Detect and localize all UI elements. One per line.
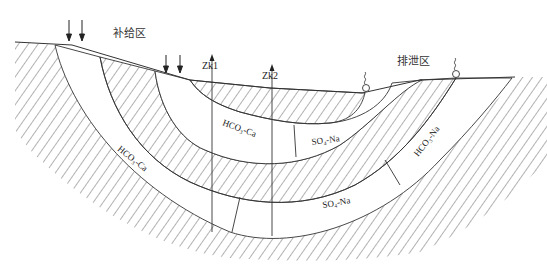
- arrow-down-icon: [178, 66, 183, 73]
- discharge-zone-label: 排泄区: [397, 54, 430, 68]
- recharge-zone-label: 补给区: [113, 27, 146, 40]
- borehole-zk1-label: Zk1: [202, 60, 218, 71]
- arrow-down-icon: [80, 34, 85, 41]
- spring-icon: [453, 58, 460, 78]
- recharge-arrows-right: [164, 55, 183, 73]
- recharge-arrows-left: [67, 20, 85, 41]
- arrow-down-icon: [67, 34, 72, 41]
- cross-section-svg: 补给区 排泄区 Zk1 Zk2 HCO₃-Ca HCO₃-Ca SO₄-Na S…: [0, 0, 547, 268]
- borehole-zk2-label: Zk2: [262, 70, 278, 81]
- spring-icon: [363, 72, 370, 92]
- hydrogeology-diagram: 补给区 排泄区 Zk1 Zk2 HCO₃-Ca HCO₃-Ca SO₄-Na S…: [0, 0, 547, 268]
